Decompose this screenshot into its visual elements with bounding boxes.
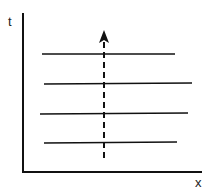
worldline-diagram: t x <box>0 0 211 192</box>
horizontal-line-3 <box>40 113 188 114</box>
horizontal-line-2 <box>44 83 192 84</box>
horizontal-lines <box>40 54 192 143</box>
t-axis-label: t <box>8 14 12 29</box>
arrow-head-icon <box>99 30 109 43</box>
x-axis-label: x <box>195 175 202 190</box>
horizontal-line-4 <box>44 142 177 143</box>
